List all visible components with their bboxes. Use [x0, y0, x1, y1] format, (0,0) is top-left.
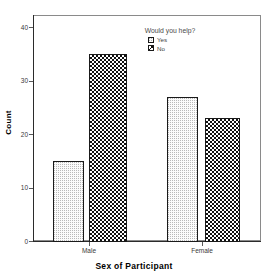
bar-female-no[interactable]: [205, 118, 240, 242]
checkered-swatch-icon: [148, 45, 154, 51]
bar-fill-checkered: [90, 55, 126, 241]
x-axis-title: Sex of Participant: [0, 261, 268, 271]
legend-item-no[interactable]: No: [128, 45, 212, 52]
x-tick-mark-male: [89, 242, 90, 246]
legend-label-no: No: [157, 45, 165, 52]
bar-fill-checkered: [206, 119, 239, 241]
bar-fill-dotted: [168, 98, 197, 241]
legend-title: Would you help?: [128, 27, 212, 34]
legend-item-yes[interactable]: Yes: [128, 36, 212, 43]
legend: Would you help? Yes No: [128, 27, 212, 52]
bar-female-yes[interactable]: [167, 97, 198, 242]
bar-fill-dotted: [54, 162, 83, 241]
legend-label-yes: Yes: [157, 36, 167, 43]
x-tick-mark-female: [202, 242, 203, 246]
bar-chart: Count 40 30 20 10 0 Male Female S: [0, 0, 268, 280]
x-tick-label-male: Male: [59, 247, 119, 254]
x-tick-label-female: Female: [172, 247, 232, 254]
bar-male-no[interactable]: [89, 54, 127, 242]
dotted-swatch-icon: [148, 37, 154, 43]
bar-male-yes[interactable]: [53, 161, 84, 242]
